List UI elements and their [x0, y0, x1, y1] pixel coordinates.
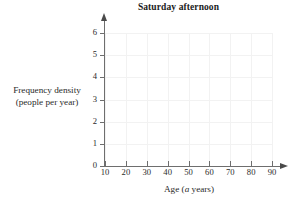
y-axis-tick-label: 0 — [84, 160, 97, 170]
gridline-horizontal — [105, 55, 272, 56]
x-axis-tick — [272, 161, 273, 166]
chart-title: Saturday afternoon — [0, 2, 297, 12]
y-axis-tick-label: 2 — [84, 116, 97, 126]
gridline-horizontal — [105, 122, 272, 123]
x-axis-label: Age (a years) — [105, 184, 273, 194]
x-axis-label-before: Age ( — [164, 184, 185, 194]
plot-area — [105, 33, 272, 166]
y-axis-label-line-1: Frequency density — [4, 84, 90, 96]
y-axis-tick — [100, 166, 105, 167]
x-axis-tick — [105, 161, 106, 166]
gridline-vertical — [272, 33, 273, 166]
gridline-horizontal — [105, 100, 272, 101]
gridline-horizontal — [105, 144, 272, 145]
x-axis-tick — [189, 161, 190, 166]
y-axis-tick-label: 6 — [84, 27, 97, 37]
y-axis-tick-label: 1 — [84, 138, 97, 148]
chart-canvas: Saturday afternoon Frequency density (pe… — [0, 0, 297, 204]
y-axis-tick — [100, 144, 105, 145]
y-axis-tick — [100, 77, 105, 78]
x-axis-tick-label: 90 — [259, 167, 285, 177]
x-axis-tick — [147, 161, 148, 166]
x-axis-tick — [168, 161, 169, 166]
x-axis-tick — [126, 161, 127, 166]
y-axis-label-line-2: (people per year) — [4, 96, 90, 108]
y-axis-tick — [100, 122, 105, 123]
y-axis-tick — [100, 55, 105, 56]
gridline-horizontal — [105, 77, 272, 78]
y-axis-tick-label: 4 — [84, 71, 97, 81]
y-axis-tick — [100, 100, 105, 101]
y-axis-line — [104, 20, 105, 167]
gridline-horizontal — [105, 33, 272, 34]
y-axis-tick-label: 3 — [84, 94, 97, 104]
gridlines — [105, 33, 272, 166]
y-axis-arrowhead-icon — [101, 13, 107, 21]
x-axis-tick — [251, 161, 252, 166]
y-axis-tick-label: 5 — [84, 49, 97, 59]
x-axis-label-after: years) — [189, 184, 214, 194]
y-axis-label: Frequency density (people per year) — [4, 84, 90, 108]
x-axis-tick — [230, 161, 231, 166]
x-axis-tick — [209, 161, 210, 166]
y-axis-tick — [100, 33, 105, 34]
